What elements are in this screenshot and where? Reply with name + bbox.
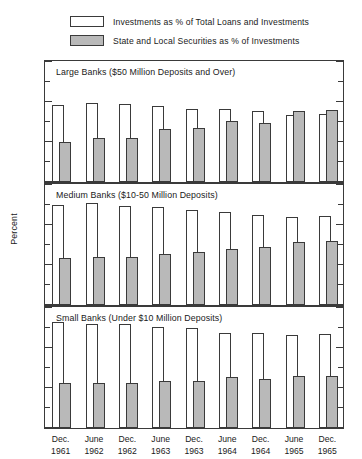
y-axis-tick-minor — [338, 161, 343, 162]
y-axis-tick-minor — [45, 367, 50, 368]
bar-state-local-securities-pct — [126, 257, 138, 305]
bar-group — [286, 61, 305, 182]
bar-state-local-securities-pct — [59, 258, 71, 305]
chart-panel-medium-banks: Medium Banks ($10-50 Million Deposits) 6… — [44, 183, 344, 306]
y-axis-tick-major — [45, 306, 52, 307]
y-axis-tick-minor — [45, 327, 50, 328]
x-axis: Dec.1961June1962Dec.1962June1963Dec.1963… — [44, 431, 344, 459]
y-axis-tick-minor — [338, 327, 343, 328]
bar-state-local-securities-pct — [226, 121, 238, 183]
bar-group — [86, 307, 105, 428]
bar-state-local-securities-pct — [193, 252, 205, 305]
bar-group — [319, 307, 338, 428]
y-axis-tick-major — [45, 427, 52, 428]
bar-state-local-securities-pct — [93, 257, 105, 305]
bar-group — [186, 184, 205, 305]
bar-state-local-securities-pct — [193, 128, 205, 182]
plot-area — [45, 61, 343, 182]
open-square-icon — [70, 16, 104, 27]
y-axis-tick-major — [45, 183, 52, 184]
bar-group — [286, 184, 305, 305]
y-axis-tick-minor — [338, 244, 343, 245]
bar-group — [252, 184, 271, 305]
bar-group — [52, 184, 71, 305]
panel-title: Small Banks (Under $10 Million Deposits) — [56, 313, 222, 323]
bar-state-local-securities-pct — [293, 111, 305, 182]
bar-state-local-securities-pct — [59, 142, 71, 182]
bar-state-local-securities-pct — [126, 383, 138, 428]
bar-group — [186, 307, 205, 428]
bar-group — [152, 184, 171, 305]
bar-group — [219, 307, 238, 428]
y-axis-tick-minor — [338, 407, 343, 408]
bar-state-local-securities-pct — [226, 249, 238, 305]
bar-state-local-securities-pct — [326, 110, 338, 182]
bar-state-local-securities-pct — [159, 254, 171, 305]
y-axis-tick-minor — [338, 121, 343, 122]
bar-group — [286, 307, 305, 428]
y-axis-tick-minor — [45, 244, 50, 245]
bar-group — [86, 184, 105, 305]
y-axis-tick-minor — [338, 204, 343, 205]
y-axis-tick-major — [45, 264, 52, 265]
filled-square-icon — [70, 35, 104, 46]
x-axis-tick-label: Dec.1965 — [304, 434, 350, 457]
bar-state-local-securities-pct — [326, 376, 338, 428]
bar-state-local-securities-pct — [259, 379, 271, 428]
y-axis-tick-minor — [338, 367, 343, 368]
bar-chart: Percent Large Banks ($50 Million Deposit… — [0, 56, 362, 459]
bar-group — [252, 61, 271, 182]
chart-panel-small-banks: Small Banks (Under $10 Million Deposits)… — [44, 306, 344, 429]
bar-group — [152, 307, 171, 428]
bar-state-local-securities-pct — [226, 377, 238, 428]
bar-state-local-securities-pct — [159, 381, 171, 428]
y-axis-tick-major — [45, 101, 52, 102]
bar-group — [219, 61, 238, 182]
y-axis-tick-minor — [45, 121, 50, 122]
bar-state-local-securities-pct — [259, 123, 271, 182]
bar-state-local-securities-pct — [93, 138, 105, 182]
bar-group — [52, 61, 71, 182]
y-axis-tick-minor — [45, 81, 50, 82]
y-axis-tick-minor — [45, 161, 50, 162]
panel-title: Medium Banks ($10-50 Million Deposits) — [56, 190, 218, 200]
bar-group — [86, 61, 105, 182]
legend-item-label: State and Local Securities as % of Inves… — [113, 36, 300, 46]
bar-group — [319, 184, 338, 305]
y-axis-tick-major — [45, 387, 52, 388]
y-axis-tick-major — [45, 347, 52, 348]
y-axis-tick-minor — [338, 81, 343, 82]
bar-state-local-securities-pct — [293, 242, 305, 305]
bar-state-local-securities-pct — [93, 383, 105, 428]
bar-state-local-securities-pct — [293, 376, 305, 428]
y-axis-tick-major — [45, 224, 52, 225]
y-axis-tick-minor — [45, 407, 50, 408]
panel-title: Large Banks ($50 Million Deposits and Ov… — [56, 67, 235, 77]
bar-group — [252, 307, 271, 428]
chart-panel-large-banks: Large Banks ($50 Million Deposits and Ov… — [44, 60, 344, 183]
bar-group — [119, 307, 138, 428]
x-label-month: Dec. — [304, 434, 350, 446]
bar-state-local-securities-pct — [326, 241, 338, 305]
y-axis-tick-major — [45, 141, 52, 142]
y-axis-tick-minor — [338, 284, 343, 285]
bar-group — [52, 307, 71, 428]
bar-state-local-securities-pct — [159, 129, 171, 182]
bar-group — [119, 61, 138, 182]
y-axis-title: Percent — [9, 199, 19, 259]
chart-legend: Investments as % of Total Loans and Inve… — [70, 14, 360, 52]
bar-group — [152, 61, 171, 182]
legend-item: Investments as % of Total Loans and Inve… — [70, 14, 360, 29]
bar-state-local-securities-pct — [126, 138, 138, 182]
y-axis-tick-minor — [45, 204, 50, 205]
y-axis-tick-minor — [45, 284, 50, 285]
legend-item: State and Local Securities as % of Inves… — [70, 33, 360, 48]
legend-item-label: Investments as % of Total Loans and Inve… — [113, 17, 309, 27]
bar-state-local-securities-pct — [193, 381, 205, 428]
bar-group — [219, 184, 238, 305]
plot-area — [45, 307, 343, 428]
bar-group — [119, 184, 138, 305]
bar-group — [186, 61, 205, 182]
plot-area — [45, 184, 343, 305]
bar-state-local-securities-pct — [59, 383, 71, 428]
